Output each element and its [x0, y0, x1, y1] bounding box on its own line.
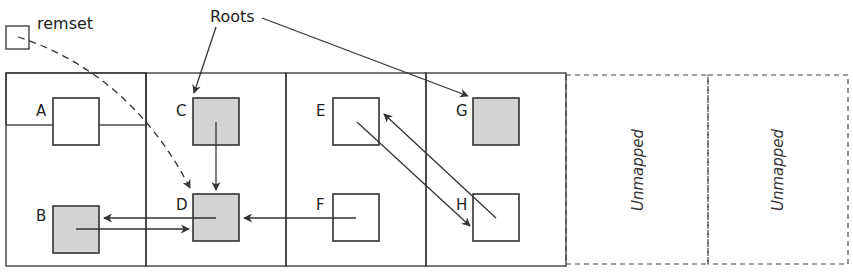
object-H-label: H: [456, 196, 467, 214]
region-6-label: Unmapped: [769, 128, 787, 211]
edge-roots-to-C: [194, 27, 216, 93]
object-B-label: B: [36, 207, 46, 225]
object-C: C: [176, 98, 239, 145]
heap-regions-diagram: remset Roots Unmapped Unmapped A B C D E: [0, 0, 853, 280]
object-H: H: [456, 194, 519, 241]
remset: remset: [6, 14, 93, 49]
unmapped-regions: Unmapped Unmapped: [566, 75, 848, 264]
object-A-label: A: [36, 102, 47, 120]
roots-label: Roots: [210, 7, 255, 26]
object-G-box: [473, 98, 519, 145]
object-A: A: [36, 98, 99, 145]
object-G: G: [456, 98, 519, 145]
object-F-label: F: [316, 196, 325, 214]
edge-roots-to-G: [262, 18, 468, 96]
object-C-label: C: [176, 102, 186, 120]
object-A-box: [53, 98, 99, 145]
region-5-label: Unmapped: [629, 128, 647, 211]
object-D-label: D: [176, 196, 188, 214]
remset-box: [6, 26, 29, 49]
object-E: E: [316, 98, 379, 145]
object-E-box: [333, 98, 379, 145]
object-E-label: E: [316, 102, 325, 120]
remset-label: remset: [37, 14, 93, 33]
object-G-label: G: [456, 102, 468, 120]
